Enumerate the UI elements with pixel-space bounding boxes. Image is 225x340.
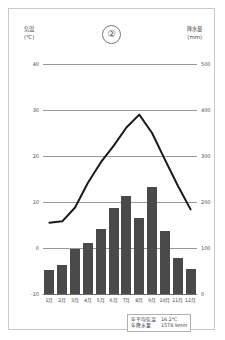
left-tick-40: 40 xyxy=(33,62,39,67)
left-tick-10: 10 xyxy=(33,200,39,205)
right-tick-100: 100 xyxy=(201,246,211,251)
figure-number: ② xyxy=(9,25,214,44)
left-tick-20: 20 xyxy=(33,154,39,159)
left-tick-0: 0 xyxy=(36,246,39,251)
month-labels: 1月2月3月4月5月6月7月8月9月10月11月12月 xyxy=(43,296,197,306)
month-label-10月: 10月 xyxy=(159,296,172,305)
right-tick-400: 400 xyxy=(201,108,211,113)
month-label-12月: 12月 xyxy=(184,296,197,305)
month-label-3月: 3月 xyxy=(69,296,82,305)
month-label-11月: 11月 xyxy=(171,296,184,305)
right-tick-0: 0 xyxy=(201,292,204,297)
month-label-9月: 9月 xyxy=(146,296,159,305)
x-axis-line xyxy=(43,294,197,295)
annual-precip-row: 年降水量 1578.9mm xyxy=(131,323,187,329)
annual-summary-box: 年平均気温 16.2℃ 年降水量 1578.9mm xyxy=(127,314,191,332)
temperature-line xyxy=(43,64,197,294)
month-label-8月: 8月 xyxy=(133,296,146,305)
plot-area: -100010010200203003040040500 xyxy=(43,64,197,294)
right-tick-300: 300 xyxy=(201,154,211,159)
right-tick-200: 200 xyxy=(201,200,211,205)
left-tick--10: -10 xyxy=(31,292,39,297)
figure-number-circle: ② xyxy=(102,25,121,44)
left-tick-30: 30 xyxy=(33,108,39,113)
month-label-2月: 2月 xyxy=(56,296,69,305)
annual-precip-label: 年降水量 xyxy=(131,323,156,329)
month-label-6月: 6月 xyxy=(107,296,120,305)
chart-frame: 気温 (℃) 降水量 (mm) ② -100010010200203003040… xyxy=(8,8,215,330)
month-label-7月: 7月 xyxy=(120,296,133,305)
mean-temp-label: 年平均気温 xyxy=(131,317,156,323)
month-label-4月: 4月 xyxy=(82,296,95,305)
annual-precip-value: 1578.9mm xyxy=(156,323,187,329)
month-label-1月: 1月 xyxy=(43,296,56,305)
right-tick-500: 500 xyxy=(201,62,211,67)
month-label-5月: 5月 xyxy=(94,296,107,305)
